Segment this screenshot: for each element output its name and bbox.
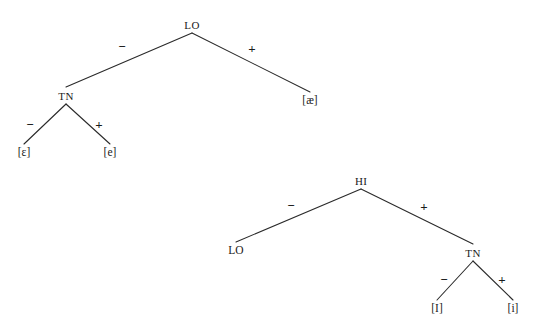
figure-canvas: −+−+LOTN[æ][ɛ][e]−+−+HILOTN[I][i] [0, 0, 538, 333]
tree-leaf-tree-high-leaf-i: [i] [508, 303, 519, 315]
edge-sign-tree-low-edge-root-tn: − [118, 40, 125, 53]
tree-edge-tree-high-edge-root-lo [236, 189, 361, 242]
tree-leaf-tree-low-leaf-e: [e] [104, 147, 117, 159]
tree-edge-tree-high-edge-tn-i [473, 261, 513, 300]
edge-sign-tree-low-edge-tn-epsilon: − [26, 118, 33, 131]
tree-node-tree-high-internal-tn: TN [465, 248, 480, 259]
tree-leaf-tree-low-leaf-ae: [æ] [302, 95, 317, 107]
tree-leaf-tree-high-leaf-cap-i: [I] [431, 303, 443, 315]
tree-edges-layer [0, 0, 538, 333]
edge-sign-tree-high-edge-root-lo: − [287, 199, 294, 212]
edge-sign-tree-high-edge-tn-cap-i: − [440, 273, 447, 286]
tree-edge-tree-low-edge-root-tn [66, 33, 192, 87]
edge-sign-tree-high-edge-tn-i: + [498, 273, 505, 286]
tree-leaf-tree-high-leaf-lo: LO [228, 245, 243, 257]
tree-node-tree-high-root: HI [355, 176, 367, 187]
edge-sign-tree-low-edge-root-ae: + [248, 42, 255, 55]
tree-leaf-tree-low-leaf-epsilon: [ɛ] [18, 147, 31, 159]
edge-sign-tree-low-edge-tn-e: + [95, 118, 102, 131]
tree-node-tree-low-root: LO [184, 20, 199, 31]
edge-sign-tree-high-edge-root-tn: + [420, 200, 427, 213]
tree-edge-tree-high-edge-root-tn [361, 189, 473, 244]
tree-node-tree-low-internal-tn: TN [58, 91, 73, 102]
tree-edge-tree-low-edge-tn-e [66, 104, 110, 144]
